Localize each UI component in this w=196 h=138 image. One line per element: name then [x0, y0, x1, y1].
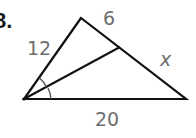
label-base-20: 20 — [95, 110, 119, 129]
angle-arc-lower — [48, 88, 51, 99]
label-segment-x: x — [160, 50, 171, 69]
angle-arc-upper — [40, 78, 47, 87]
label-segment-6: 6 — [103, 9, 115, 28]
vertex-point — [22, 97, 25, 100]
label-side-12: 12 — [27, 39, 51, 58]
